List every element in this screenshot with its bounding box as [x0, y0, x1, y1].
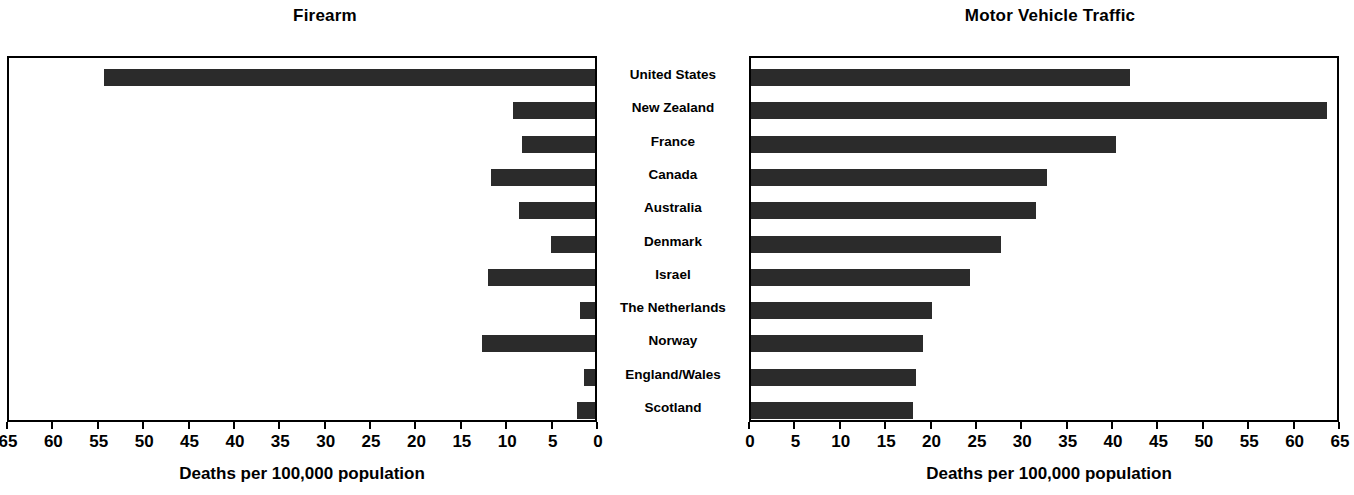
category-label: Canada	[601, 168, 745, 182]
left-plot-area	[7, 56, 597, 422]
axis-tick-label: 30	[1002, 432, 1042, 452]
axis-tick	[369, 422, 371, 429]
axis-tick	[51, 422, 53, 429]
right-plot-area	[749, 56, 1339, 422]
category-label: The Netherlands	[601, 301, 745, 315]
axis-tick-label: 45	[170, 432, 210, 452]
bar	[551, 236, 595, 253]
axis-tick-label: 20	[912, 432, 952, 452]
bar	[751, 335, 923, 352]
category-label: Denmark	[601, 235, 745, 249]
axis-tick	[414, 422, 416, 429]
bar	[751, 369, 916, 386]
axis-tick-label: 0	[730, 432, 770, 452]
axis-tick-label: 50	[124, 432, 164, 452]
axis-tick-label: 35	[260, 432, 300, 452]
bar	[751, 136, 1116, 153]
left-bars-layer	[9, 58, 595, 420]
axis-tick-label: 30	[306, 432, 346, 452]
bar	[751, 169, 1047, 186]
category-label: Scotland	[601, 401, 745, 415]
bar	[488, 269, 595, 286]
bar	[522, 136, 595, 153]
axis-tick	[930, 422, 932, 429]
axis-tick-label: 55	[1229, 432, 1269, 452]
bar	[482, 335, 595, 352]
axis-tick-label: 35	[1048, 432, 1088, 452]
bar	[751, 102, 1327, 119]
axis-tick	[142, 422, 144, 429]
bar	[519, 202, 595, 219]
axis-tick-label: 0	[578, 432, 618, 452]
axis-tick	[839, 422, 841, 429]
axis-tick-label: 25	[957, 432, 997, 452]
bar	[580, 302, 595, 319]
right-panel-title: Motor Vehicle Traffic	[905, 6, 1195, 26]
right-x-axis: Deaths per 100,000 population 0510152025…	[749, 422, 1339, 482]
axis-tick	[596, 422, 598, 429]
axis-tick	[97, 422, 99, 429]
left-panel-title: Firearm	[180, 6, 470, 26]
axis-tick-label: 50	[1184, 432, 1224, 452]
left-x-axis: Deaths per 100,000 population 6560555045…	[7, 422, 597, 482]
right-bars-layer	[751, 58, 1337, 420]
bar	[751, 269, 970, 286]
axis-tick	[1066, 422, 1068, 429]
axis-tick	[551, 422, 553, 429]
axis-tick	[324, 422, 326, 429]
bar	[584, 369, 595, 386]
axis-tick	[460, 422, 462, 429]
axis-tick	[1156, 422, 1158, 429]
axis-tick	[884, 422, 886, 429]
axis-tick	[233, 422, 235, 429]
right-axis-title: Deaths per 100,000 population	[849, 464, 1249, 484]
axis-tick-label: 40	[1093, 432, 1133, 452]
axis-tick-label: 25	[351, 432, 391, 452]
axis-tick-label: 65	[1320, 432, 1354, 452]
axis-tick	[1338, 422, 1340, 429]
category-label: Australia	[601, 201, 745, 215]
axis-tick	[1202, 422, 1204, 429]
axis-tick-label: 10	[821, 432, 861, 452]
axis-tick	[1111, 422, 1113, 429]
axis-tick	[1247, 422, 1249, 429]
axis-tick	[975, 422, 977, 429]
axis-tick-label: 15	[442, 432, 482, 452]
bar	[513, 102, 595, 119]
bar	[751, 302, 932, 319]
axis-tick-label: 45	[1138, 432, 1178, 452]
axis-tick	[793, 422, 795, 429]
axis-tick-label: 15	[866, 432, 906, 452]
axis-tick-label: 55	[79, 432, 119, 452]
axis-tick-label: 5	[775, 432, 815, 452]
bar	[491, 169, 595, 186]
left-axis-title: Deaths per 100,000 population	[102, 464, 502, 484]
axis-tick	[505, 422, 507, 429]
axis-tick-label: 5	[533, 432, 573, 452]
bar	[104, 69, 595, 86]
axis-tick	[278, 422, 280, 429]
axis-tick-label: 20	[396, 432, 436, 452]
bar	[751, 202, 1036, 219]
axis-tick	[1020, 422, 1022, 429]
axis-tick-label: 65	[0, 432, 28, 452]
bar	[577, 402, 595, 419]
bar	[751, 69, 1130, 86]
axis-tick-label: 60	[1275, 432, 1315, 452]
bar	[751, 236, 1001, 253]
bar	[751, 402, 913, 419]
axis-tick-label: 60	[33, 432, 73, 452]
axis-tick	[6, 422, 8, 429]
axis-tick	[748, 422, 750, 429]
axis-tick	[1293, 422, 1295, 429]
axis-tick-label: 40	[215, 432, 255, 452]
category-label: England/Wales	[601, 368, 745, 382]
category-label: New Zealand	[601, 101, 745, 115]
category-label-column: United StatesNew ZealandFranceCanadaAust…	[601, 56, 745, 422]
axis-tick-label: 10	[487, 432, 527, 452]
axis-tick	[188, 422, 190, 429]
category-label: Norway	[601, 334, 745, 348]
category-label: France	[601, 135, 745, 149]
category-label: United States	[601, 68, 745, 82]
